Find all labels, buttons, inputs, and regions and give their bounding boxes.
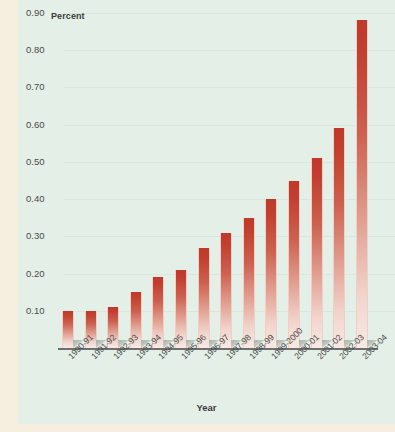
bar[interactable] — [288, 0, 300, 348]
bar[interactable] — [243, 0, 255, 348]
bar-rect — [62, 311, 74, 348]
bar-rect — [356, 20, 368, 348]
bar[interactable] — [130, 0, 142, 348]
bar-rect — [311, 158, 323, 348]
bar[interactable] — [175, 0, 187, 348]
bar[interactable] — [311, 0, 323, 348]
bar-rect — [265, 199, 277, 348]
plot-area: 1990-911991-921992-931993-941994-951995-… — [18, 0, 395, 424]
bar[interactable] — [198, 0, 210, 348]
bar[interactable] — [62, 0, 74, 348]
bar[interactable] — [265, 0, 277, 348]
bar-rect — [243, 218, 255, 348]
bar[interactable] — [85, 0, 97, 348]
bar[interactable] — [333, 0, 345, 348]
x-axis-title: Year — [18, 402, 395, 413]
bar-rect — [220, 233, 232, 348]
bar-rect — [288, 181, 300, 349]
bar-rect — [333, 128, 345, 348]
bar[interactable] — [107, 0, 119, 348]
chart-figure: Percent 0.900.800.700.600.500.400.300.20… — [0, 0, 395, 432]
chart-panel: Percent 0.900.800.700.600.500.400.300.20… — [18, 0, 395, 424]
bar[interactable] — [152, 0, 164, 348]
bar[interactable] — [356, 0, 368, 348]
bar[interactable] — [220, 0, 232, 348]
